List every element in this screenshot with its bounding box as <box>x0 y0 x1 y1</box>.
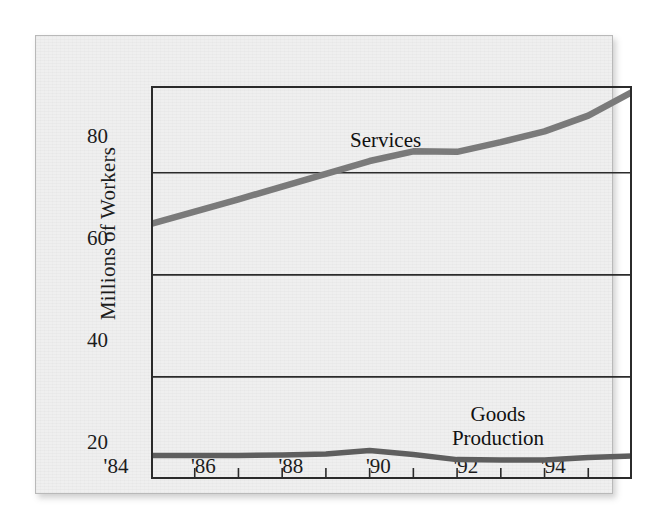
x-tick-label-1984: '84 <box>89 454 143 479</box>
series-line-goods-production <box>151 450 632 460</box>
figure-outer-panel: Millions of Workers 20406080 '84'86'88'9… <box>35 35 613 494</box>
y-tick-label-60: 60 <box>62 226 108 251</box>
series-label-goods-line2: Production <box>428 426 568 450</box>
figure-root: Millions of Workers 20406080 '84'86'88'9… <box>0 0 653 526</box>
series-label-services: Services <box>350 128 421 152</box>
series-label-goods-production: Goods Production <box>428 402 568 450</box>
y-tick-label-20: 20 <box>62 430 108 455</box>
y-tick-label-80: 80 <box>62 124 108 149</box>
x-axis-ticks-group <box>195 468 589 479</box>
series-line-services <box>151 92 632 224</box>
series-label-goods-line1: Goods <box>428 402 568 426</box>
y-tick-label-40: 40 <box>62 328 108 353</box>
